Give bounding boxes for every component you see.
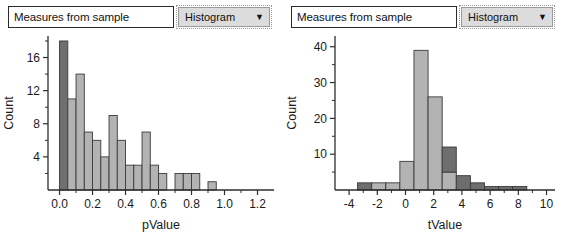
pvalue-histogram-plot: 0.00.20.40.60.81.01.2481216pValueCount: [0, 30, 282, 248]
y-tick-label: 10: [314, 147, 328, 161]
histogram-bar: [68, 99, 76, 190]
y-tick-label: 16: [27, 51, 41, 65]
histogram-bar-light: [414, 50, 428, 190]
histogram-bar-dark: [442, 147, 456, 172]
x-axis-title: tValue: [428, 218, 463, 232]
histogram-bar: [208, 182, 216, 190]
histogram-bar-light: [386, 183, 400, 190]
histogram-bar: [117, 140, 125, 190]
x-tick-label: 0.8: [183, 197, 200, 211]
tvalue-histogram-svg: -4-2024681010203040tValueCount: [283, 30, 565, 248]
histogram-bar: [76, 74, 84, 190]
y-tick-label: 4: [33, 150, 40, 164]
panel-header-right: Measures from sample Histogram ▼: [291, 6, 559, 30]
histogram-bar-light: [400, 161, 414, 190]
histogram-bar: [84, 132, 92, 190]
histogram-bar-dark: [456, 176, 470, 190]
histogram-bar-dark: [358, 183, 372, 190]
panel-header-left: Measures from sample Histogram ▼: [8, 6, 276, 30]
tvalue-histogram-plot: -4-2024681010203040tValueCount: [283, 30, 565, 248]
x-tick-label: 0.2: [84, 197, 101, 211]
measures-textbox-left-value: Measures from sample: [14, 11, 129, 23]
y-tick-label: 8: [33, 117, 40, 131]
histogram-bar-light: [428, 97, 442, 190]
x-tick-label: 4: [459, 197, 466, 211]
measures-textbox-right-value: Measures from sample: [297, 11, 412, 23]
histogram-bar: [109, 115, 117, 190]
histogram-bar: [101, 157, 109, 190]
x-tick-label: -4: [344, 197, 355, 211]
x-tick-label: 1.2: [249, 197, 266, 211]
x-tick-label: 0.6: [150, 197, 167, 211]
chevron-down-icon: ▼: [255, 13, 264, 22]
chart-type-dropdown-right[interactable]: Histogram ▼: [461, 7, 553, 27]
histogram-bar: [183, 173, 191, 190]
x-tick-label: 6: [487, 197, 494, 211]
histogram-bar: [159, 173, 167, 190]
histogram-bar-light: [442, 172, 456, 190]
histogram-bar: [142, 132, 150, 190]
x-tick-label: -2: [372, 197, 383, 211]
y-tick-label: 20: [314, 112, 328, 126]
pvalue-histogram-svg: 0.00.20.40.60.81.01.2481216pValueCount: [0, 30, 282, 248]
x-tick-label: 0.0: [51, 197, 68, 211]
y-axis-title: Count: [285, 96, 299, 130]
y-axis-title: Count: [2, 96, 16, 130]
x-tick-label: 0: [402, 197, 409, 211]
histogram-bar: [93, 140, 101, 190]
measures-textbox-left[interactable]: Measures from sample: [8, 6, 174, 28]
chart-type-dropdown-left[interactable]: Histogram ▼: [178, 7, 270, 27]
panel-tvalue: Measures from sample Histogram ▼ -4-2024…: [283, 0, 565, 248]
chevron-down-icon: ▼: [538, 13, 547, 22]
histogram-bar-light: [372, 183, 386, 190]
histogram-bar: [60, 41, 68, 190]
measures-textbox-right[interactable]: Measures from sample: [291, 6, 457, 28]
y-tick-label: 40: [314, 40, 328, 54]
histogram-comparison-view: Measures from sample Histogram ▼ 0.00.20…: [0, 0, 565, 248]
x-tick-label: 8: [515, 197, 522, 211]
histogram-bar: [175, 173, 183, 190]
x-axis-title: pValue: [142, 218, 180, 232]
y-tick-label: 12: [27, 84, 41, 98]
x-tick-label: 0.4: [117, 197, 134, 211]
chart-type-dropdown-left-value: Histogram: [185, 11, 235, 23]
chart-type-dropdown-right-value: Histogram: [468, 11, 518, 23]
histogram-bar: [192, 173, 200, 190]
bars-group: [358, 50, 527, 190]
y-tick-label: 30: [314, 76, 328, 90]
histogram-bar: [150, 165, 158, 190]
histogram-bar: [126, 165, 134, 190]
bars-group: [60, 41, 217, 190]
x-tick-label: 2: [430, 197, 437, 211]
panel-pvalue: Measures from sample Histogram ▼ 0.00.20…: [0, 0, 282, 248]
histogram-bar: [134, 165, 142, 190]
x-tick-label: 1.0: [216, 197, 233, 211]
histogram-bar-dark: [470, 183, 484, 190]
x-tick-label: 10: [540, 197, 554, 211]
